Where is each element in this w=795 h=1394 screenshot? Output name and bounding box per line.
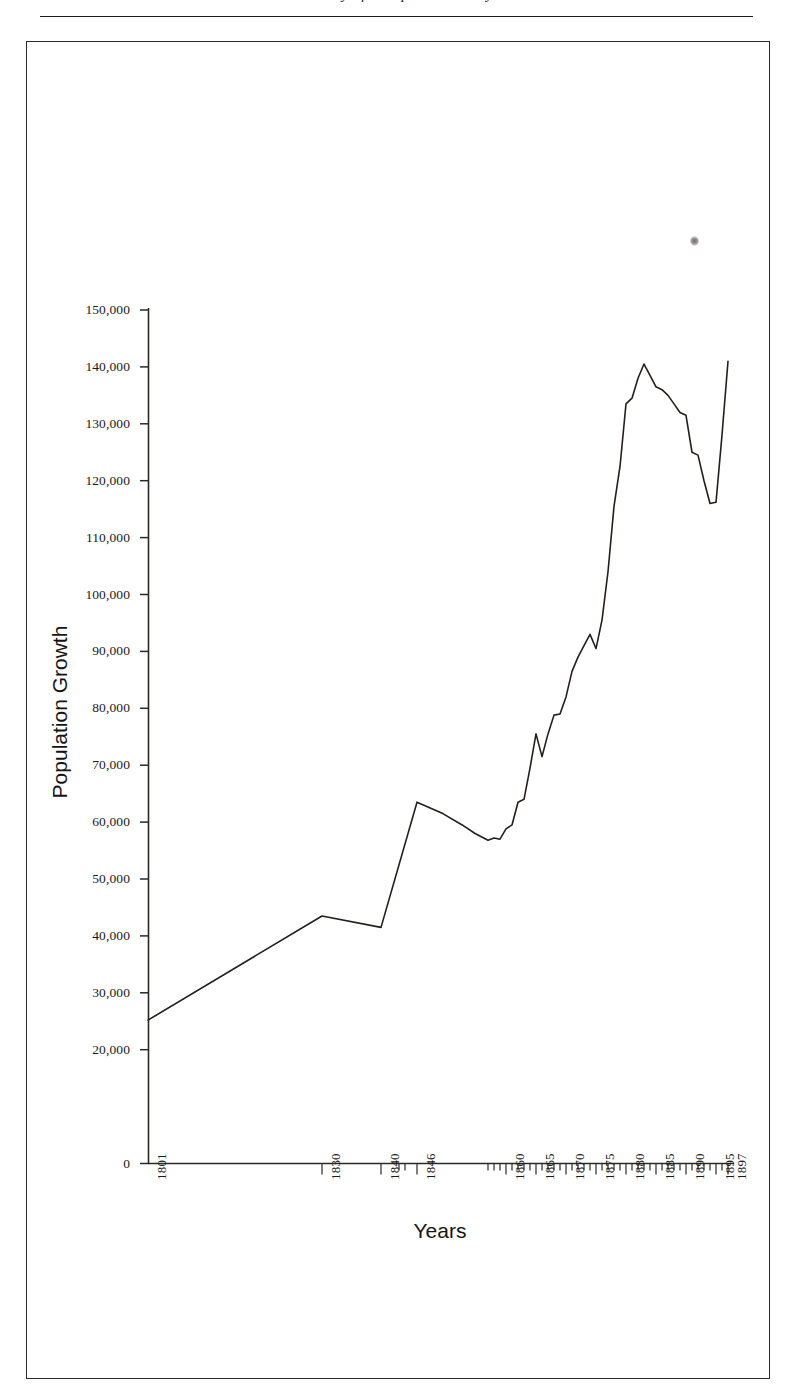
x-tick-label: 1897: [734, 1153, 750, 1180]
y-tick-label: 40,000: [44, 928, 130, 944]
x-tick-label: 1830: [328, 1153, 344, 1180]
x-axis-title: Years: [300, 1219, 580, 1243]
y-tick-label: 130,000: [44, 416, 130, 432]
y-tick-label: 30,000: [44, 985, 130, 1001]
y-tick-label: 20,000: [44, 1042, 130, 1058]
y-tick-label: 110,000: [44, 530, 130, 546]
x-tick-label: 1870: [572, 1153, 588, 1180]
x-tick-label: 1875: [602, 1153, 618, 1180]
x-tick-label: 1890: [692, 1153, 708, 1180]
scan-artifact-speck: [690, 236, 699, 246]
y-tick-label: 120,000: [44, 473, 130, 489]
population-data-line: [148, 361, 728, 1020]
x-tick-label: 1860: [512, 1153, 528, 1180]
y-tick-label: 150,000: [44, 302, 130, 318]
x-tick-label: 1865: [542, 1153, 558, 1180]
x-tick-label: 1885: [662, 1153, 678, 1180]
y-tick-label: 50,000: [44, 871, 130, 887]
x-tick-label: 1880: [632, 1153, 648, 1180]
y-tick-label: 140,000: [44, 359, 130, 375]
y-axis-title: Population Growth: [48, 592, 72, 832]
chart-plot-svg: [0, 0, 795, 1394]
y-tick-label: 0: [44, 1156, 130, 1172]
axes-group: [148, 308, 734, 1164]
y-tick-marks: [140, 310, 149, 1164]
x-tick-label: 1846: [423, 1153, 439, 1180]
x-tick-label: 1801: [154, 1153, 170, 1180]
x-tick-label: 1840: [387, 1153, 403, 1180]
population-growth-chart: 150,000140,000130,000120,000110,000100,0…: [0, 0, 795, 1394]
